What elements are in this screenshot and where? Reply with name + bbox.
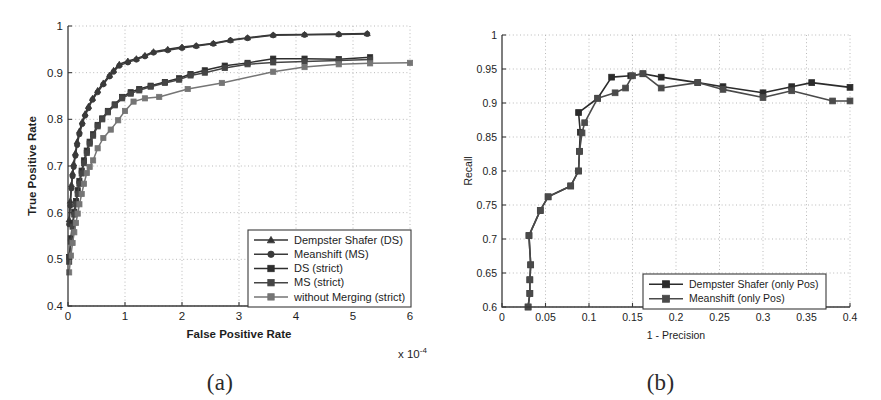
series-line xyxy=(528,74,850,307)
data-point-marker xyxy=(131,99,136,104)
legend-marker xyxy=(268,294,274,300)
data-point-marker xyxy=(148,84,153,89)
data-point-marker xyxy=(101,82,106,87)
data-point-marker xyxy=(128,91,133,96)
x-axis-title: 1 - Precision xyxy=(647,329,706,341)
data-point-marker xyxy=(77,132,82,137)
series-line xyxy=(69,34,367,224)
data-point-marker xyxy=(112,103,117,108)
data-point-marker xyxy=(609,74,615,80)
series-line xyxy=(69,57,370,257)
y-tick-label: 0.9 xyxy=(47,67,63,79)
y-tick-label: 0.65 xyxy=(477,267,498,279)
chart-legend: Dempster Shafer (DS)Meanshift (MS)DS (st… xyxy=(248,230,411,307)
data-point-marker xyxy=(365,31,370,36)
data-point-marker xyxy=(165,48,170,53)
data-point-marker xyxy=(81,161,86,166)
data-point-marker xyxy=(90,158,95,163)
y-tick-label: 0.7 xyxy=(47,160,63,172)
data-point-marker xyxy=(336,32,341,37)
legend-marker xyxy=(663,281,670,288)
x-axis-exponent-label: x 10-4 xyxy=(398,346,427,360)
data-point-marker xyxy=(302,64,307,69)
data-point-marker xyxy=(760,95,766,101)
data-point-marker xyxy=(67,270,72,275)
data-point-marker xyxy=(120,96,125,101)
chart-panel-b: 00.050.10.150.20.250.30.350.40.60.650.70… xyxy=(440,0,881,400)
data-point-marker xyxy=(612,90,618,96)
data-point-marker xyxy=(577,148,583,154)
data-point-marker xyxy=(81,181,86,186)
data-point-marker xyxy=(545,194,551,200)
x-tick-label: 6 xyxy=(407,310,413,322)
data-point-marker xyxy=(177,77,182,82)
x-tick-label: 0 xyxy=(499,311,505,323)
data-point-marker xyxy=(79,171,84,176)
data-point-marker xyxy=(228,38,233,43)
data-point-marker xyxy=(105,110,110,115)
y-axis-title: True Positive Rate xyxy=(26,116,38,216)
y-tick-label: 0.6 xyxy=(482,301,497,313)
data-point-marker xyxy=(658,85,664,91)
data-point-marker xyxy=(142,54,147,59)
data-point-marker xyxy=(658,74,664,80)
data-point-marker xyxy=(86,106,91,111)
data-point-marker xyxy=(75,142,80,147)
data-point-marker xyxy=(576,168,582,174)
data-point-marker xyxy=(134,57,139,62)
data-point-marker xyxy=(271,60,276,65)
data-point-marker xyxy=(111,69,116,74)
data-point-marker xyxy=(95,124,100,129)
x-tick-label: 0.1 xyxy=(582,311,597,323)
y-tick-label: 0.4 xyxy=(47,300,64,312)
data-point-marker xyxy=(695,80,701,86)
data-point-marker xyxy=(582,120,588,126)
y-tick-label: 0.5 xyxy=(47,253,63,265)
y-tick-label: 1 xyxy=(57,20,63,32)
chart-legend: Dempster Shafer (only Pos)Meanshift (onl… xyxy=(643,274,826,309)
series-line xyxy=(528,74,850,307)
y-tick-label: 0.7 xyxy=(482,233,497,245)
data-point-marker xyxy=(157,94,162,99)
x-axis-title: False Positive Rate xyxy=(187,328,292,340)
roc-chart-svg: 01234560.40.50.60.70.80.91False Positive… xyxy=(0,0,440,400)
legend-marker xyxy=(268,265,274,271)
data-point-marker xyxy=(100,117,105,122)
x-tick-label: 5 xyxy=(350,310,356,322)
data-point-marker xyxy=(69,186,74,191)
data-point-marker xyxy=(84,170,89,175)
data-point-marker xyxy=(576,110,582,116)
data-point-marker xyxy=(125,60,130,65)
figure-root: 01234560.40.50.60.70.80.91False Positive… xyxy=(0,0,881,400)
data-point-marker xyxy=(108,127,113,132)
data-point-marker xyxy=(789,88,795,94)
data-point-marker xyxy=(117,63,122,68)
grid-lines xyxy=(502,35,850,307)
legend-label: Meanshift (MS) xyxy=(294,248,369,260)
y-tick-label: 0.75 xyxy=(477,199,498,211)
data-point-marker xyxy=(68,253,73,258)
chart-panel-a: 01234560.40.50.60.70.80.91False Positive… xyxy=(0,0,440,400)
data-point-marker xyxy=(640,71,646,77)
data-point-marker xyxy=(162,80,167,85)
subfigure-caption-a: (a) xyxy=(0,370,440,396)
x-tick-label: 2 xyxy=(179,310,185,322)
data-point-marker xyxy=(107,74,112,79)
data-point-marker xyxy=(336,62,341,67)
data-point-marker xyxy=(302,59,307,64)
x-tick-label: 0.2 xyxy=(669,311,684,323)
data-point-marker xyxy=(526,233,532,239)
legend-label: Meanshift (only Pos) xyxy=(689,292,785,304)
precision-recall-chart-svg: 00.050.10.150.20.250.30.350.40.60.650.70… xyxy=(440,0,881,400)
data-point-marker xyxy=(623,85,629,91)
data-point-marker xyxy=(95,146,100,151)
subfigure-caption-b: (b) xyxy=(440,370,881,396)
data-point-marker xyxy=(151,50,156,55)
data-point-marker xyxy=(142,96,147,101)
data-point-marker xyxy=(73,220,78,225)
data-point-marker xyxy=(271,69,276,74)
data-point-marker xyxy=(720,87,726,93)
data-point-marker xyxy=(211,41,216,46)
data-point-marker xyxy=(179,45,184,50)
y-tick-label: 1 xyxy=(491,29,497,41)
